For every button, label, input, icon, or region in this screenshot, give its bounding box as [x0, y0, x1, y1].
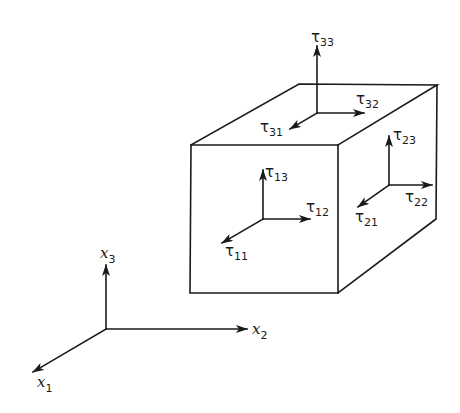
tau21-label: τ21: [355, 208, 378, 229]
x1-label: x1: [37, 373, 52, 395]
tau11-arrow: [222, 219, 263, 243]
tau32-label: τ32: [356, 90, 379, 111]
tau22-label: τ22: [405, 188, 428, 209]
tau13-label: τ13: [265, 163, 288, 184]
tau12-label: τ12: [306, 198, 329, 219]
coordinate-axes: x3 x2 x1: [33, 244, 267, 395]
x2-label: x2: [252, 320, 267, 342]
tau23-label: τ23: [393, 126, 416, 147]
side-face-edges: [338, 85, 437, 293]
tau31-arrow: [290, 113, 317, 129]
tau33-label: τ33: [311, 28, 334, 49]
stress-element-diagram: τ33 τ32 τ31 τ13 τ12 τ11 τ23 τ22: [0, 0, 460, 413]
tau11-label: τ11: [225, 242, 248, 263]
tau31-label: τ31: [260, 118, 283, 139]
x1-axis-arrow: [33, 329, 106, 372]
front-face-stresses: τ13 τ12 τ11: [222, 163, 329, 263]
x3-label: x3: [100, 244, 115, 266]
tau21-arrow: [358, 185, 389, 207]
side-face-stresses: τ23 τ22 τ21: [355, 126, 432, 229]
